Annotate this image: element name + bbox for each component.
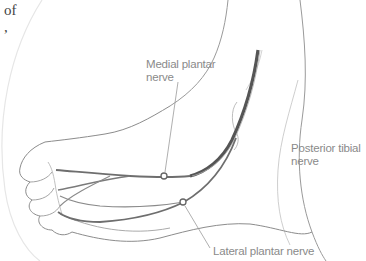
sole-outline	[72, 224, 312, 242]
label-lateral-plantar-line1: Lateral plantar nerve	[213, 245, 314, 258]
lateral-plantar-marker	[180, 199, 186, 205]
shin-outline	[170, 0, 228, 106]
medial-plantar-marker	[161, 173, 167, 179]
dorsal-outline	[20, 106, 170, 168]
label-lateral-plantar: Lateral plantar nerve	[213, 245, 314, 258]
frame-arc	[2, 0, 42, 261]
medial-plantar-leader	[165, 82, 178, 172]
label-medial-plantar: Medial plantar nerve	[146, 58, 215, 84]
medial-plantar-nerve	[56, 170, 190, 177]
label-medial-plantar-line1: Medial plantar	[146, 58, 215, 71]
label-posterior-tibial: Posterior tibial nerve	[291, 142, 361, 168]
partial-text-comma: ,	[4, 20, 8, 35]
foot-drawing	[0, 0, 366, 261]
label-posterior-tibial-line2: nerve	[291, 155, 361, 168]
leg-back-outline	[299, 0, 326, 261]
lateral-plantar-nerve	[58, 138, 236, 222]
foot-nerve-illustration: of , Medial plantar nerve Posterior tibi…	[0, 0, 366, 261]
label-posterior-tibial-line1: Posterior tibial	[291, 142, 361, 155]
label-medial-plantar-line2: nerve	[146, 71, 215, 84]
partial-text-of: of	[4, 3, 17, 18]
